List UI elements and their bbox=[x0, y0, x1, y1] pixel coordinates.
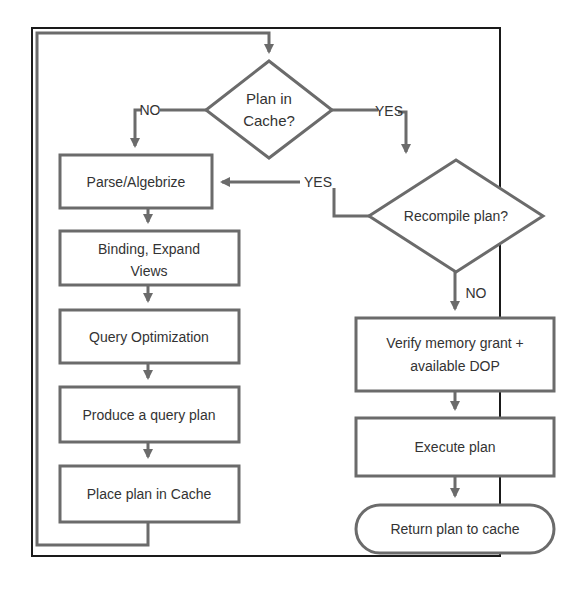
process-place-plan-in-cache: Place plan in Cache bbox=[60, 466, 239, 522]
process-place-plan-label: Place plan in Cache bbox=[87, 486, 212, 502]
decision-plan-in-cache: Plan in Cache? bbox=[206, 61, 332, 158]
process-binding-expand-views: Binding, Expand Views bbox=[60, 231, 239, 285]
process-query-optimization-label: Query Optimization bbox=[89, 329, 209, 345]
edge-label-cache-yes: YES bbox=[375, 103, 403, 119]
process-produce-query-plan: Produce a query plan bbox=[60, 387, 239, 442]
process-verify-line1: Verify memory grant + bbox=[386, 335, 523, 351]
edge-label-cache-no: NO bbox=[140, 102, 161, 118]
process-binding-line2: Views bbox=[130, 263, 167, 279]
decision-plan-in-cache-line2: Cache? bbox=[243, 112, 295, 129]
edge-label-recompile-no: NO bbox=[466, 285, 487, 301]
process-verify-line2: available DOP bbox=[410, 358, 500, 374]
terminal-return-plan-to-cache: Return plan to cache bbox=[356, 505, 554, 553]
process-execute-plan-label: Execute plan bbox=[415, 439, 496, 455]
process-verify-memory-grant: Verify memory grant + available DOP bbox=[356, 318, 554, 391]
process-binding-line1: Binding, Expand bbox=[98, 241, 200, 257]
terminal-return-label: Return plan to cache bbox=[390, 521, 519, 537]
decision-plan-in-cache-line1: Plan in bbox=[246, 90, 292, 107]
process-parse-algebrize-label: Parse/Algebrize bbox=[87, 174, 186, 190]
process-query-optimization: Query Optimization bbox=[60, 310, 239, 363]
process-produce-query-plan-label: Produce a query plan bbox=[82, 407, 215, 423]
process-parse-algebrize: Parse/Algebrize bbox=[60, 155, 212, 208]
decision-recompile-plan-label: Recompile plan? bbox=[404, 208, 508, 224]
decision-recompile-plan: Recompile plan? bbox=[369, 160, 543, 272]
query-plan-flowchart: Plan in Cache? NO YES Recompile plan? YE… bbox=[0, 0, 586, 590]
process-execute-plan: Execute plan bbox=[356, 418, 554, 476]
edge-recompile-yes bbox=[222, 182, 369, 216]
edge-label-recompile-yes: YES bbox=[304, 174, 332, 190]
